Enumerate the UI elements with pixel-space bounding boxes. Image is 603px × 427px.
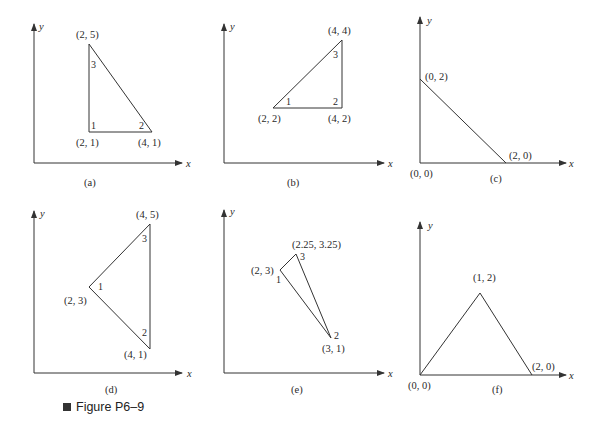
panel-e: y x 1 2 3 (2, 3) (3, 1) (2.25, 3.25) (e) xyxy=(224,206,393,396)
y-axis-label: y xyxy=(426,15,432,26)
panel-a: y x 1 2 3 (2, 1) (4, 1) (2, 5) (a) xyxy=(34,21,191,189)
y-axis-label: y xyxy=(39,208,45,219)
x-axis-label: x xyxy=(568,370,574,381)
node-coord: (3, 1) xyxy=(322,343,345,355)
node-number: 2 xyxy=(334,330,339,341)
node-number: 2 xyxy=(139,120,144,131)
node-coord: (2, 2) xyxy=(258,113,281,125)
node-coord: (4, 1) xyxy=(124,349,147,361)
node-coord: (1, 2) xyxy=(473,272,496,284)
triangle-element xyxy=(273,40,342,108)
node-coord: (0, 2) xyxy=(425,71,448,83)
node-coord: (2, 3) xyxy=(64,295,87,307)
panel-c: y x (0, 0) (2, 0) (0, 2) (c) xyxy=(410,15,574,185)
x-axis-label: x xyxy=(387,368,393,379)
y-axis-label: y xyxy=(229,21,235,32)
triangle-element xyxy=(89,44,152,132)
triangle-edges xyxy=(420,293,532,375)
node-number: 3 xyxy=(300,251,305,262)
node-coord: (4, 5) xyxy=(136,209,159,221)
y-axis-label: y xyxy=(38,21,44,32)
x-axis-label: x xyxy=(387,158,393,169)
node-number: 1 xyxy=(276,274,281,285)
node-coord: (2, 0) xyxy=(532,361,555,373)
node-coord: (2, 0) xyxy=(509,150,532,162)
triangle-element xyxy=(280,254,331,338)
node-number: 1 xyxy=(98,281,103,292)
x-axis-label: x xyxy=(186,368,192,379)
node-number: 1 xyxy=(91,120,96,131)
node-number: 3 xyxy=(91,59,96,70)
node-coord: (2, 3) xyxy=(251,265,274,277)
node-coord: (4, 4) xyxy=(328,25,351,37)
node-coord: (2.25, 3.25) xyxy=(292,239,341,251)
node-number: 2 xyxy=(333,96,338,107)
x-axis-label: x xyxy=(568,158,574,169)
y-axis-label: y xyxy=(427,220,433,231)
panel-f: y x (0, 0) (2, 0) (1, 2) (f) xyxy=(408,220,574,396)
node-coord: (0, 0) xyxy=(410,168,433,180)
node-number: 1 xyxy=(286,96,291,107)
panel-label: (f) xyxy=(492,384,503,396)
black-square-bullet-icon xyxy=(63,403,71,411)
panel-label: (e) xyxy=(291,384,303,396)
node-number: 3 xyxy=(142,233,147,244)
node-number: 2 xyxy=(142,327,147,338)
panel-d: y x 1 2 3 (2, 3) (4, 1) (4, 5) (d) xyxy=(34,208,192,396)
x-axis-label: x xyxy=(185,158,191,169)
panel-b: y x 1 2 3 (2, 2) (4, 2) (4, 4) (b) xyxy=(224,21,393,189)
panel-label: (a) xyxy=(84,177,96,189)
panel-label: (c) xyxy=(490,173,502,185)
node-coord: (2, 1) xyxy=(76,137,99,149)
node-number: 3 xyxy=(333,49,338,60)
hypotenuse-edge xyxy=(420,79,506,163)
figure-canvas: y x 1 2 3 (2, 1) (4, 1) (2, 5) (a) y x 1… xyxy=(0,0,603,427)
panel-label: (d) xyxy=(105,384,118,396)
node-coord: (4, 1) xyxy=(138,137,161,149)
node-coord: (2, 5) xyxy=(76,29,99,41)
node-coord: (0, 0) xyxy=(408,380,431,392)
figure-caption-text: Figure P6–9 xyxy=(76,400,144,414)
panel-label: (b) xyxy=(287,177,300,189)
figure-caption: Figure P6–9 xyxy=(63,400,144,414)
node-coord: (4, 2) xyxy=(328,113,351,125)
y-axis-label: y xyxy=(229,206,235,217)
